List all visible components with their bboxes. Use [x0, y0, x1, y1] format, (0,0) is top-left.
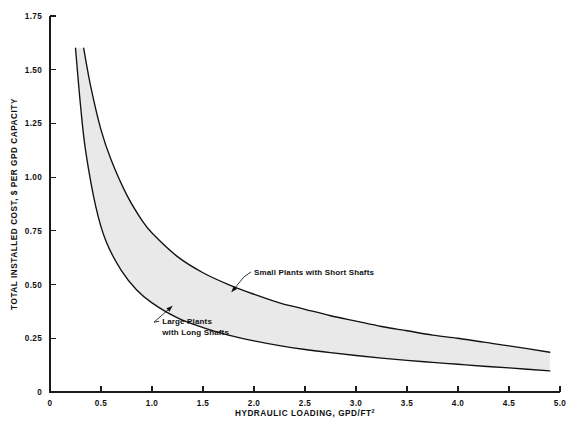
x-tick-label: 4.0 [452, 399, 464, 408]
annotation-label: Small Plants with Short Shafts [254, 268, 374, 277]
x-tick-label: 3.0 [350, 399, 362, 408]
x-tick-label: 2.5 [299, 399, 311, 408]
y-axis-ticks: 00.250.500.751.001.251.501.75 [25, 12, 56, 397]
y-tick-label: 0.25 [25, 334, 42, 343]
annotation-leader-stub [244, 272, 251, 277]
x-tick-label: 4.5 [503, 399, 515, 408]
chart-figure: 00.250.500.751.001.251.501.75 00.51.01.5… [0, 0, 576, 430]
x-tick-label: 1.0 [146, 399, 158, 408]
y-tick-label: 1.25 [25, 119, 42, 128]
x-tick-label: 5.0 [554, 399, 566, 408]
chart-svg: 00.250.500.751.001.251.501.75 00.51.01.5… [0, 0, 576, 430]
x-axis-title: HYDRAULIC LOADING, GPD/FT2 [235, 408, 375, 418]
annotation-label: with Long Shafts [161, 328, 229, 337]
annotation-label: Large Plants [162, 317, 212, 326]
x-axis-title-text: HYDRAULIC LOADING, GPD/FT [235, 409, 372, 418]
y-tick-label: 0 [37, 388, 42, 397]
x-tick-label: 3.5 [401, 399, 413, 408]
x-tick-label: 0.5 [95, 399, 107, 408]
x-tick-label: 1.5 [197, 399, 209, 408]
x-axis-title-superscript: 2 [372, 408, 376, 414]
upper-bound-curve [84, 48, 550, 352]
y-axis-title: TOTAL INSTALLED COST, $ PER GPD CAPACITY [10, 98, 19, 310]
y-tick-label: 1.75 [25, 12, 42, 21]
y-tick-label: 0.50 [25, 281, 42, 290]
x-axis-ticks: 00.51.01.52.02.53.03.54.04.55.0 [48, 386, 567, 408]
x-tick-label: 2.0 [248, 399, 260, 408]
y-tick-label: 0.75 [25, 227, 42, 236]
y-tick-label: 1.50 [25, 66, 42, 75]
y-tick-label: 1.00 [25, 173, 42, 182]
shaded-band-region [76, 48, 550, 371]
x-tick-label: 0 [48, 399, 53, 408]
